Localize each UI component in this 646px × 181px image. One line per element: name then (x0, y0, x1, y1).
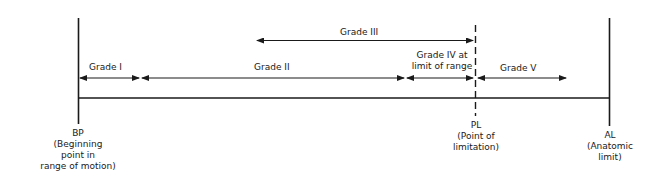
grade-v-label: Grade V (500, 63, 536, 74)
bp-abbr: BP (58, 128, 98, 139)
grade-ii-label: Grade II (254, 62, 290, 73)
grade-iv-label: Grade IV at limit of range (410, 50, 474, 72)
grade-iii-label: Grade III (340, 27, 378, 38)
grade-i-label: Grade I (89, 62, 122, 73)
pl-desc: (Point of limitation) (441, 131, 511, 153)
al-abbr: AL (590, 130, 630, 141)
bp-desc: (Beginning point in range of motion) (38, 139, 118, 172)
al-desc: (Anatomic limit) (575, 141, 645, 163)
pl-abbr: PL (456, 120, 496, 131)
